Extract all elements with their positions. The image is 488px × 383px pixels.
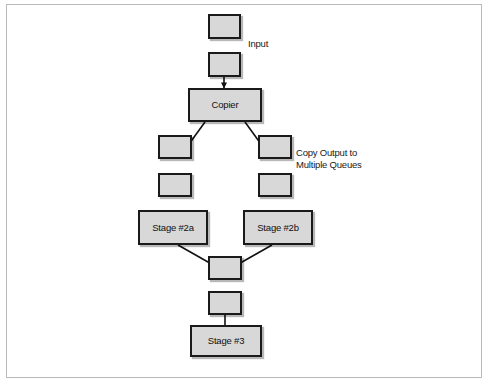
node-stage-3: Stage #3 — [190, 325, 262, 357]
diagram-figure: Input Copier Copy Output to Multiple Que… — [0, 0, 488, 383]
node-merge-queue-upper — [208, 256, 242, 280]
node-left-queue-lower — [158, 173, 192, 197]
node-input-queue-bottom — [208, 52, 241, 77]
node-copier: Copier — [188, 88, 262, 122]
node-left-queue-upper — [158, 135, 192, 159]
node-right-queue-upper — [258, 135, 292, 159]
node-input-queue-top — [208, 14, 241, 39]
node-right-queue-lower — [258, 173, 292, 197]
label-input: Input — [248, 38, 268, 50]
label-copy-output-to-multiple-queues: Copy Output to Multiple Queues — [296, 147, 362, 170]
node-merge-queue-lower — [208, 291, 242, 315]
node-stage-2a: Stage #2a — [138, 210, 208, 245]
node-stage-2b: Stage #2b — [243, 210, 313, 245]
